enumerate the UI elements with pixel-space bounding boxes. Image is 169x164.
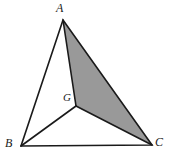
triangle-diagram-svg [0, 0, 169, 164]
vertex-label-c: C [155, 136, 163, 148]
vertex-label-b: B [5, 137, 12, 149]
vertex-label-g: G [63, 92, 71, 103]
vertex-label-a: A [56, 2, 63, 14]
segment-gb [21, 106, 76, 146]
geometry-figure: A B C G [0, 0, 169, 164]
